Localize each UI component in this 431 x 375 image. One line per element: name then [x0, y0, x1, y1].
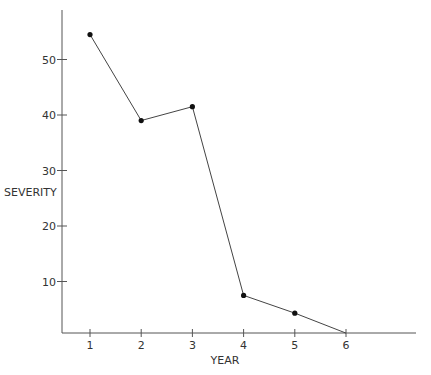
data-markers: [87, 32, 297, 316]
x-tick-label: 3: [189, 339, 196, 352]
data-point-marker: [87, 32, 92, 37]
y-axis-title: SEVERITY: [4, 186, 57, 199]
x-axis-title: YEAR: [210, 354, 240, 367]
data-point-marker: [139, 118, 144, 123]
x-tick-label: 4: [240, 339, 247, 352]
x-ticks: 123456: [87, 329, 350, 352]
x-tick-label: 2: [138, 339, 145, 352]
data-point-marker: [292, 311, 297, 316]
line-chart: 1020304050 123456 SEVERITY YEAR: [0, 0, 431, 375]
y-tick-label: 30: [42, 165, 56, 178]
data-point-marker: [241, 293, 246, 298]
y-tick-label: 50: [42, 54, 56, 67]
y-ticks: 1020304050: [42, 54, 67, 289]
x-tick-label: 6: [343, 339, 350, 352]
data-point-marker: [190, 104, 195, 109]
y-tick-label: 20: [42, 220, 56, 233]
series-line: [90, 35, 346, 334]
y-tick-label: 10: [42, 276, 56, 289]
x-tick-label: 5: [291, 339, 298, 352]
y-tick-label: 40: [42, 109, 56, 122]
x-tick-label: 1: [87, 339, 94, 352]
